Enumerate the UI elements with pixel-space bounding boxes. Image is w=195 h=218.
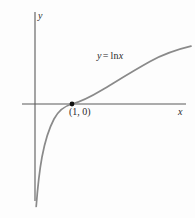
axis-label-x: x (178, 107, 182, 117)
equation-rhs-variable: x (119, 50, 124, 61)
equation-lhs: y (97, 50, 102, 61)
axis-label-y: y (38, 11, 42, 21)
intercept-point-label: (1, 0) (69, 107, 91, 117)
equation-function-name: ln (109, 50, 118, 61)
logarithm-graph-figure: y x y=lnx (1, 0) (0, 0, 195, 218)
plot-canvas (0, 0, 195, 218)
natural-log-curve (36, 46, 191, 206)
curve-equation-label: y=lnx (97, 51, 123, 61)
